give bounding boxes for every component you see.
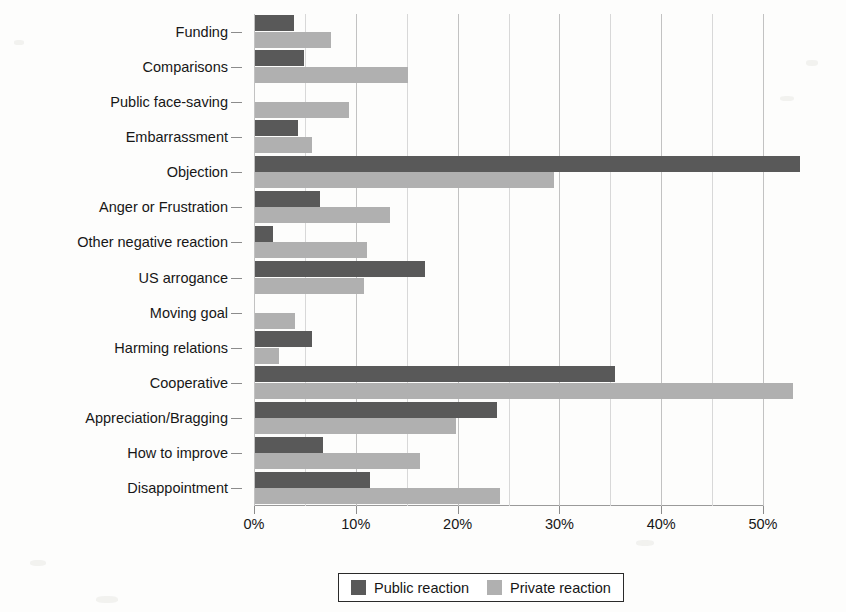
legend-swatch-public-icon bbox=[351, 580, 366, 595]
category-tick-mark bbox=[231, 348, 242, 349]
x-tick-label: 0% bbox=[244, 516, 265, 532]
category-label: US arrogance bbox=[139, 270, 228, 286]
legend-item-public: Public reaction bbox=[351, 580, 469, 596]
bar-private bbox=[255, 67, 408, 83]
bar-public bbox=[255, 366, 615, 382]
category-label: Comparisons bbox=[143, 59, 228, 75]
scan-speck bbox=[806, 60, 818, 66]
category-tick-mark bbox=[231, 67, 242, 68]
bar-public bbox=[255, 120, 298, 136]
category-label: How to improve bbox=[127, 445, 228, 461]
gridline-35 bbox=[610, 14, 611, 506]
category-tick-mark bbox=[231, 313, 242, 314]
x-tick-mark bbox=[254, 506, 255, 514]
category-label: Appreciation/Bragging bbox=[85, 410, 228, 426]
x-tick-mark bbox=[661, 506, 662, 514]
category-label: Cooperative bbox=[150, 375, 228, 391]
category-tick-mark bbox=[231, 488, 242, 489]
bar-private bbox=[255, 383, 793, 399]
scan-speck bbox=[30, 560, 46, 566]
category-tick-mark bbox=[231, 172, 242, 173]
bar-public bbox=[255, 191, 320, 207]
bar-private bbox=[255, 172, 554, 188]
category-label: Moving goal bbox=[150, 305, 228, 321]
category-tick-mark bbox=[231, 102, 242, 103]
bar-private bbox=[255, 488, 500, 504]
category-label: Objection bbox=[167, 164, 228, 180]
category-label: Harming relations bbox=[114, 340, 228, 356]
bar-public bbox=[255, 15, 294, 31]
gridline-30 bbox=[559, 14, 560, 506]
category-tick-mark bbox=[231, 418, 242, 419]
legend-label-private: Private reaction bbox=[510, 580, 611, 596]
bar-public bbox=[255, 331, 312, 347]
plot-area bbox=[254, 14, 763, 506]
bar-private bbox=[255, 348, 279, 364]
bar-public bbox=[255, 156, 800, 172]
bar-private bbox=[255, 242, 367, 258]
category-tick-mark bbox=[231, 453, 242, 454]
bar-public bbox=[255, 261, 425, 277]
x-tick-label: 20% bbox=[443, 516, 472, 532]
category-label: Anger or Frustration bbox=[99, 199, 228, 215]
bar-private bbox=[255, 453, 420, 469]
category-tick-mark bbox=[231, 32, 242, 33]
bar-chart: FundingComparisonsPublic face-savingEmba… bbox=[0, 0, 846, 612]
x-tick-label: 50% bbox=[748, 516, 777, 532]
category-tick-mark bbox=[231, 383, 242, 384]
bar-private bbox=[255, 102, 349, 118]
gridline-45 bbox=[712, 14, 713, 506]
scan-speck bbox=[780, 96, 794, 101]
bar-private bbox=[255, 207, 390, 223]
gridline-20 bbox=[458, 14, 459, 506]
bar-private bbox=[255, 32, 331, 48]
x-tick-mark bbox=[458, 506, 459, 514]
legend-swatch-private-icon bbox=[487, 580, 502, 595]
x-axis-tick-labels: 0%10%20%30%40%50% bbox=[254, 516, 814, 538]
category-label: Other negative reaction bbox=[77, 234, 228, 250]
category-tick-mark bbox=[231, 137, 242, 138]
bar-public bbox=[255, 437, 323, 453]
category-label: Disappointment bbox=[127, 480, 228, 496]
legend-label-public: Public reaction bbox=[374, 580, 469, 596]
legend-item-private: Private reaction bbox=[487, 580, 611, 596]
x-tick-mark bbox=[356, 506, 357, 514]
bar-private bbox=[255, 313, 295, 329]
gridline-40 bbox=[661, 14, 662, 506]
bar-private bbox=[255, 278, 364, 294]
category-label: Funding bbox=[176, 24, 228, 40]
category-label: Embarrassment bbox=[126, 129, 228, 145]
x-axis-tick-marks bbox=[254, 506, 814, 516]
x-tick-label: 30% bbox=[545, 516, 574, 532]
bar-public bbox=[255, 50, 304, 66]
chart-legend: Public reaction Private reaction bbox=[338, 573, 624, 602]
bar-private bbox=[255, 418, 456, 434]
bar-private bbox=[255, 137, 312, 153]
x-tick-mark bbox=[559, 506, 560, 514]
bar-public bbox=[255, 472, 370, 488]
gridline-25 bbox=[509, 14, 510, 506]
bar-public bbox=[255, 226, 273, 242]
category-tick-mark bbox=[231, 207, 242, 208]
category-axis: FundingComparisonsPublic face-savingEmba… bbox=[0, 14, 244, 506]
category-tick-mark bbox=[231, 278, 242, 279]
bar-public bbox=[255, 402, 497, 418]
gridline-50 bbox=[763, 14, 764, 506]
scan-speck bbox=[636, 540, 654, 546]
scan-speck bbox=[96, 596, 118, 603]
x-tick-label: 10% bbox=[341, 516, 370, 532]
category-label: Public face-saving bbox=[110, 94, 228, 110]
x-tick-mark bbox=[763, 506, 764, 514]
category-tick-mark bbox=[231, 242, 242, 243]
x-tick-label: 40% bbox=[647, 516, 676, 532]
